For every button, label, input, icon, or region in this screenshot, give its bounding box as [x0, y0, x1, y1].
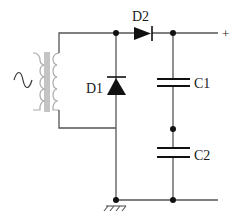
c2-label: C2	[194, 148, 210, 163]
transformer	[33, 52, 59, 112]
junction-dot	[170, 30, 176, 36]
junction-dot	[170, 126, 176, 132]
diode-d2	[134, 26, 152, 41]
diode-d1	[107, 77, 126, 95]
junction-dots	[113, 30, 176, 203]
ac-source-icon	[14, 73, 32, 88]
d1-label: D1	[86, 81, 103, 96]
d2-label: D2	[132, 9, 149, 24]
wires	[59, 33, 218, 200]
junction-dot	[113, 30, 119, 36]
c1-label: C1	[194, 76, 210, 91]
positive-terminal-label: +	[222, 26, 229, 41]
ground-icon	[104, 206, 126, 211]
capacitor-c2	[157, 148, 190, 157]
junction-dot	[113, 197, 119, 203]
circuit-diagram: D2 D1 C1 C2 +	[0, 0, 243, 224]
junction-dot	[170, 197, 176, 203]
capacitor-c1	[157, 79, 190, 86]
